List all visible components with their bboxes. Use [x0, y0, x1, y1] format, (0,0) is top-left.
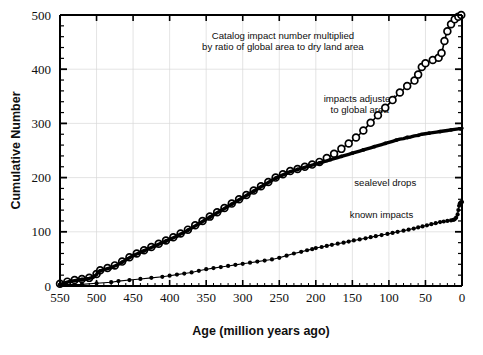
data-point-dot: [109, 266, 113, 270]
data-point-open-circle: [396, 89, 403, 96]
data-point-dot: [329, 158, 333, 162]
data-point-diamond: [363, 236, 367, 240]
data-point-open-circle: [389, 97, 396, 104]
data-point-dot: [219, 209, 223, 213]
data-point-diamond: [401, 229, 405, 233]
data-point-open-circle: [345, 140, 352, 147]
data-point-dot: [427, 131, 431, 135]
data-point-open-circle: [415, 71, 422, 78]
data-point-diamond: [369, 235, 373, 239]
data-point-dot: [80, 278, 84, 282]
x-tick-label: 400: [160, 290, 180, 305]
y-tick-label: 500: [32, 8, 52, 23]
x-tick-label: 200: [306, 290, 326, 305]
data-point-diamond: [396, 230, 400, 234]
y-tick-label: 0: [45, 279, 52, 294]
data-point-open-circle: [382, 104, 389, 111]
data-point-dot: [361, 148, 365, 152]
data-point-diamond: [442, 219, 446, 223]
data-point-dot: [208, 215, 212, 219]
data-point-open-circle: [360, 127, 367, 134]
data-point-dot: [350, 151, 354, 155]
annotation-known-impacts-label: known impacts: [350, 209, 414, 220]
data-point-dot: [438, 130, 442, 134]
data-point-diamond: [407, 228, 411, 232]
x-tick-label: 300: [233, 290, 253, 305]
data-point-diamond: [374, 234, 378, 238]
data-point-diamond: [416, 225, 420, 229]
data-point-open-circle: [404, 83, 411, 90]
series-impacts-adjusted-to-global-area: [57, 12, 465, 288]
data-point-diamond: [456, 212, 460, 216]
data-point-dot: [307, 164, 311, 168]
series-line: [60, 15, 462, 284]
axes-frame: [60, 15, 462, 286]
data-point-diamond: [325, 244, 329, 248]
data-point-dot: [416, 133, 420, 137]
data-point-dot: [230, 202, 234, 206]
data-point-diamond: [390, 231, 394, 235]
cumulative-number-vs-age-chart: Catalog impact number multipliedby ratio…: [0, 0, 483, 355]
data-point-open-circle: [331, 150, 338, 157]
data-point-diamond: [189, 270, 193, 274]
x-tick-label: 250: [270, 290, 290, 305]
data-point-dot: [186, 228, 190, 232]
data-point-diamond: [204, 267, 208, 271]
x-tick-label: 0: [459, 290, 466, 305]
data-point-diamond: [197, 269, 201, 273]
data-point-open-circle: [375, 112, 382, 119]
data-point-diamond: [420, 224, 424, 228]
data-point-dot: [153, 244, 157, 248]
chart-figure: Catalog impact number multipliedby ratio…: [0, 0, 483, 355]
data-point-diamond: [429, 222, 433, 226]
data-point-open-circle: [422, 60, 429, 67]
data-point-diamond: [341, 241, 345, 245]
data-point-diamond: [358, 237, 362, 241]
data-series-group: [57, 12, 465, 288]
data-point-dot: [340, 155, 344, 159]
data-point-diamond: [438, 220, 442, 224]
data-point-open-circle: [444, 28, 451, 35]
y-axis-title: Cumulative Number: [9, 91, 23, 209]
data-point-dot: [241, 196, 245, 200]
data-point-diamond: [211, 266, 215, 270]
data-point-dot: [296, 168, 300, 172]
grid-lines: [60, 15, 462, 286]
x-axis-title: Age (million years ago): [192, 324, 330, 338]
data-point-dot: [175, 234, 179, 238]
data-point-diamond: [347, 239, 351, 243]
x-tick-label: 500: [87, 290, 107, 305]
data-point-dot: [252, 189, 256, 193]
data-point-diamond: [116, 279, 120, 283]
chart-annotations: Catalog impact number multipliedby ratio…: [202, 30, 416, 220]
data-point-dot: [263, 183, 267, 187]
x-tick-label: 150: [343, 290, 363, 305]
data-point-open-circle: [338, 145, 345, 152]
data-point-diamond: [241, 262, 245, 266]
data-point-diamond: [412, 226, 416, 230]
data-point-diamond: [352, 238, 356, 242]
data-point-diamond: [330, 243, 334, 247]
data-point-dot: [449, 128, 453, 132]
data-point-diamond: [127, 278, 131, 282]
y-tick-label: 100: [32, 224, 52, 239]
data-point-dot: [197, 222, 201, 226]
data-point-diamond: [385, 232, 389, 236]
axis-ticks: [60, 15, 462, 286]
data-point-diamond: [226, 264, 230, 268]
data-point-diamond: [305, 248, 309, 252]
data-point-diamond: [138, 277, 142, 281]
data-point-diamond: [160, 275, 164, 279]
x-tick-label: 350: [196, 290, 216, 305]
data-point-open-circle: [438, 50, 445, 57]
annotation-catalog-note: Catalog impact number multipliedby ratio…: [202, 30, 364, 52]
data-point-dot: [69, 279, 73, 283]
data-point-diamond: [277, 256, 281, 260]
data-point-dot: [98, 269, 102, 273]
data-point-diamond: [233, 263, 237, 267]
y-tick-label: 300: [32, 116, 52, 131]
data-point-diamond: [168, 274, 172, 278]
data-point-diamond: [263, 258, 267, 262]
annotation-sealevel-label: sealevel drops: [354, 177, 416, 188]
data-point-diamond: [380, 233, 384, 237]
